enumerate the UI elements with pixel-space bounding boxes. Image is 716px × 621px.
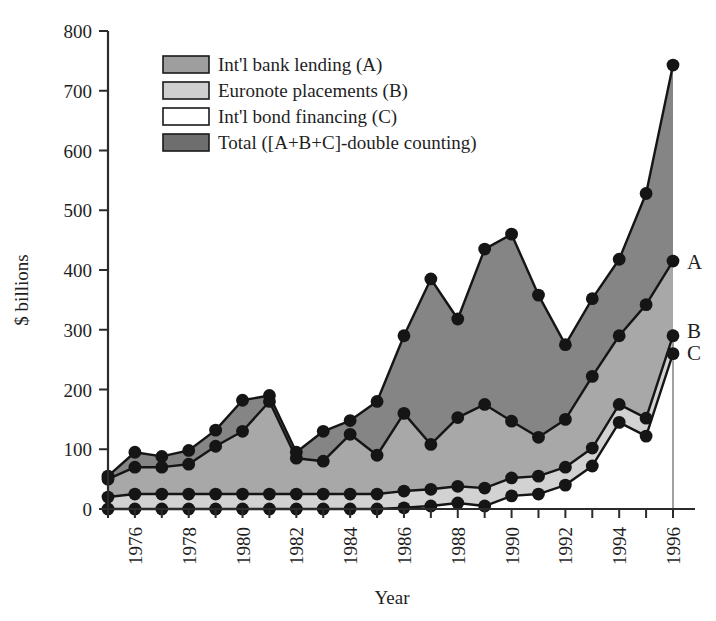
data-point-marker (667, 329, 680, 342)
data-point-marker (505, 415, 518, 428)
data-point-marker (317, 455, 330, 468)
data-point-marker (182, 458, 195, 471)
y-axis-title: $ billions (11, 254, 32, 325)
y-tick-label: 800 (64, 21, 93, 42)
series-tag-b: B (687, 319, 701, 343)
y-tick-label: 500 (64, 200, 93, 221)
x-tick-label: 1978 (179, 527, 200, 565)
data-point-marker (424, 438, 437, 451)
data-point-marker (209, 440, 222, 453)
data-point-marker (209, 488, 222, 501)
x-tick-label: 1990 (502, 527, 523, 565)
y-tick-label: 700 (64, 81, 93, 102)
data-point-marker (559, 413, 572, 426)
data-point-marker (613, 329, 626, 342)
data-point-marker (263, 488, 276, 501)
series-tag-a: A (687, 250, 703, 274)
data-point-marker (236, 488, 249, 501)
data-point-marker (640, 187, 653, 200)
x-tick-label: 1988 (448, 527, 469, 565)
data-point-marker (532, 488, 545, 501)
data-point-marker (236, 425, 249, 438)
chart-container: 1976197819801982198419861988199019921994… (0, 0, 716, 621)
data-point-marker (290, 452, 303, 465)
data-point-marker (398, 485, 411, 498)
data-point-marker (613, 416, 626, 429)
x-tick-label: 1992 (555, 527, 576, 565)
legend-swatch (163, 56, 209, 73)
data-point-marker (505, 228, 518, 241)
y-tick-labels: 0100200300400500600700800 (64, 21, 93, 520)
data-point-marker (667, 59, 680, 72)
data-point-marker (371, 449, 384, 462)
legend-swatch (163, 134, 209, 151)
data-point-marker (532, 470, 545, 483)
legend-label: Euronote placements (B) (218, 80, 408, 102)
data-point-marker (424, 483, 437, 496)
data-point-marker (532, 289, 545, 302)
data-point-marker (344, 414, 357, 427)
legend-swatch (163, 82, 209, 99)
data-point-marker (478, 482, 491, 495)
data-point-marker (640, 412, 653, 425)
chart-legend: Int'l bank lending (A)Euronote placement… (163, 54, 477, 154)
data-point-marker (478, 398, 491, 411)
x-tick-label: 1982 (286, 527, 307, 565)
legend-label: Total ([A+B+C]-double counting) (218, 132, 477, 154)
data-point-marker (155, 488, 168, 501)
financial-flows-area-chart: 1976197819801982198419861988199019921994… (0, 0, 716, 621)
data-point-marker (478, 243, 491, 256)
x-axis-title: Year (374, 587, 410, 608)
data-point-marker (451, 313, 464, 326)
data-point-marker (263, 395, 276, 408)
x-tick-label: 1980 (233, 527, 254, 565)
data-point-marker (532, 431, 545, 444)
data-point-marker (129, 446, 142, 459)
data-point-marker (398, 329, 411, 342)
legend-swatch (163, 108, 209, 125)
data-point-marker (559, 338, 572, 351)
data-point-marker (182, 444, 195, 457)
data-point-marker (290, 488, 303, 501)
data-point-marker (236, 394, 249, 407)
data-point-marker (505, 472, 518, 485)
data-point-marker (586, 370, 599, 383)
data-point-marker (155, 461, 168, 474)
data-point-marker (667, 255, 680, 268)
data-point-marker (559, 479, 572, 492)
data-point-marker (182, 488, 195, 501)
y-tick-label: 100 (64, 439, 93, 460)
data-point-marker (317, 425, 330, 438)
data-point-marker (398, 407, 411, 420)
data-point-marker (613, 398, 626, 411)
x-tick-labels: 1976197819801982198419861988199019921994… (125, 527, 684, 566)
data-point-marker (317, 488, 330, 501)
series-end-tags: ABC (687, 250, 703, 365)
data-point-marker (371, 395, 384, 408)
data-point-marker (586, 442, 599, 455)
data-point-marker (559, 461, 572, 474)
data-point-marker (344, 428, 357, 441)
legend-label: Int'l bond financing (C) (218, 106, 397, 128)
y-tick-label: 0 (83, 499, 93, 520)
data-point-marker (586, 460, 599, 473)
data-point-marker (586, 292, 599, 305)
x-tick-label: 1984 (340, 527, 361, 566)
data-point-marker (129, 488, 142, 501)
data-point-marker (344, 488, 357, 501)
data-point-marker (640, 298, 653, 311)
y-tick-label: 400 (64, 260, 93, 281)
data-point-marker (667, 347, 680, 360)
x-tick-label: 1976 (125, 527, 146, 565)
series-tag-c: C (687, 341, 701, 365)
data-point-marker (640, 430, 653, 443)
y-tick-label: 200 (64, 380, 93, 401)
data-point-marker (451, 480, 464, 493)
data-point-marker (451, 497, 464, 510)
x-tick-label: 1986 (394, 527, 415, 565)
x-tick-label: 1994 (609, 527, 630, 566)
data-point-marker (451, 411, 464, 424)
legend-label: Int'l bank lending (A) (218, 54, 382, 76)
data-point-marker (424, 273, 437, 286)
data-point-marker (129, 461, 142, 474)
